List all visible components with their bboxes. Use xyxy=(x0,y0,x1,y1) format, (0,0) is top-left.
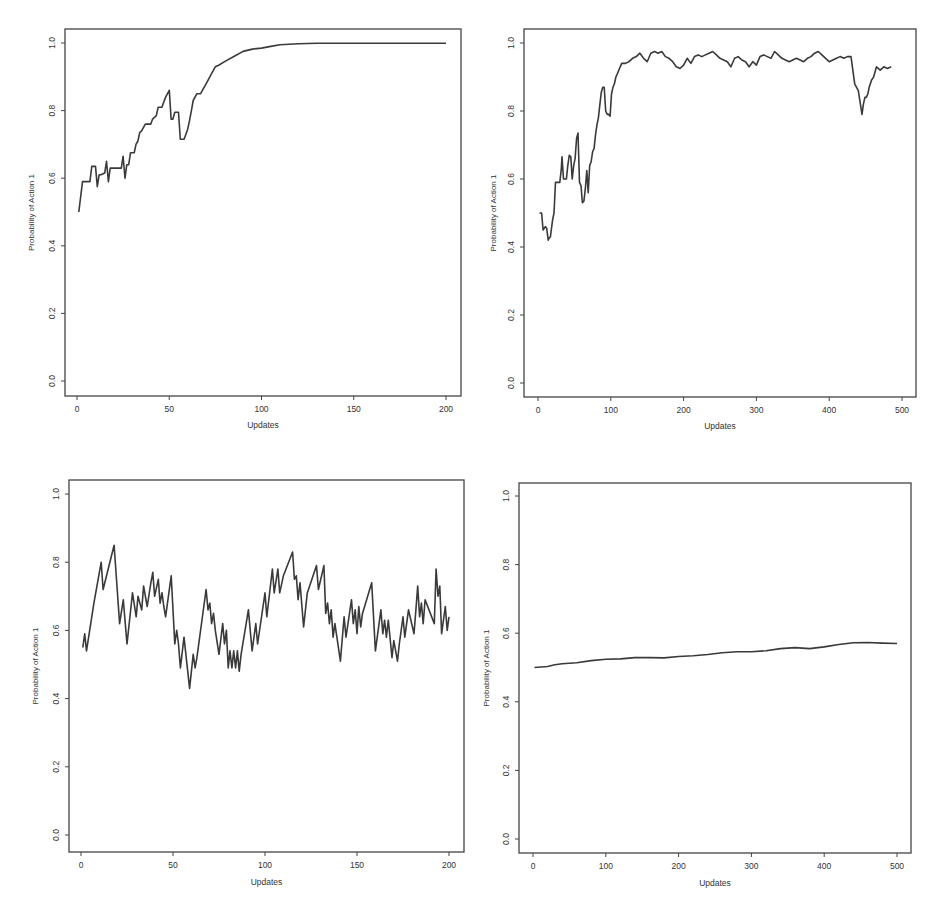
x-tick-label: 50 xyxy=(165,404,175,414)
x-tick-label: 0 xyxy=(75,404,80,414)
series-line xyxy=(79,43,446,212)
y-tick-label: 0.2 xyxy=(47,307,57,319)
x-axis: 050100150200 xyxy=(75,396,454,414)
y-axis: 0.00.20.40.60.81.0 xyxy=(501,490,519,845)
y-tick-label: 0.0 xyxy=(501,833,511,845)
x-axis-title: Updates xyxy=(251,877,283,887)
y-tick-label: 0.0 xyxy=(47,375,57,387)
x-tick-label: 100 xyxy=(604,405,618,415)
x-tick-label: 0 xyxy=(531,861,536,871)
chart-bottom-right: 01002003004005000.00.20.40.60.81.0Update… xyxy=(482,483,911,888)
y-tick-label: 0.2 xyxy=(51,761,61,773)
x-tick-label: 400 xyxy=(817,861,831,871)
y-tick-label: 0.4 xyxy=(47,240,57,252)
y-tick-label: 0.4 xyxy=(51,692,61,704)
plot-frame xyxy=(519,483,911,853)
y-tick-label: 0.8 xyxy=(47,104,57,116)
plot-frame xyxy=(65,29,461,396)
x-axis: 0100200300400500 xyxy=(536,397,910,415)
x-axis: 0100200300400500 xyxy=(531,853,905,871)
x-axis-title: Updates xyxy=(247,420,279,430)
y-tick-label: 0.0 xyxy=(506,377,516,389)
y-axis-title: Probability of Action 1 xyxy=(482,629,491,706)
series-line xyxy=(535,643,898,668)
x-tick-label: 200 xyxy=(442,860,456,870)
y-tick-label: 0.6 xyxy=(506,173,516,185)
y-axis: 0.00.20.40.60.81.0 xyxy=(47,37,65,387)
y-tick-label: 1.0 xyxy=(501,490,511,502)
y-tick-label: 0.8 xyxy=(51,556,61,568)
x-tick-label: 200 xyxy=(677,405,691,415)
x-tick-label: 300 xyxy=(749,405,763,415)
plot-frame xyxy=(69,480,464,852)
y-tick-label: 1.0 xyxy=(506,37,516,49)
y-tick-label: 0.6 xyxy=(51,624,61,636)
x-tick-label: 150 xyxy=(350,860,364,870)
y-axis-title: Probability of Action 1 xyxy=(27,173,36,250)
y-tick-label: 1.0 xyxy=(51,488,61,500)
x-axis-title: Updates xyxy=(699,878,731,888)
x-tick-label: 200 xyxy=(672,861,686,871)
y-axis-title: Probability of Action 1 xyxy=(489,174,498,251)
plot-frame xyxy=(524,29,916,397)
x-tick-label: 0 xyxy=(79,860,84,870)
y-tick-label: 0.2 xyxy=(506,309,516,321)
x-tick-label: 150 xyxy=(347,404,361,414)
y-axis-title: Probability of Action 1 xyxy=(31,627,40,704)
series-line xyxy=(540,52,892,241)
chart-top-left: 0501001502000.00.20.40.60.81.0UpdatesPro… xyxy=(27,29,461,430)
y-tick-label: 0.8 xyxy=(501,558,511,570)
x-tick-label: 100 xyxy=(254,404,268,414)
figure-canvas: 0501001502000.00.20.40.60.81.0UpdatesPro… xyxy=(0,0,944,915)
y-tick-label: 1.0 xyxy=(47,37,57,49)
x-axis-title: Updates xyxy=(704,421,736,431)
x-tick-label: 500 xyxy=(895,405,909,415)
y-axis: 0.00.20.40.60.81.0 xyxy=(51,488,69,841)
y-tick-label: 0.6 xyxy=(501,627,511,639)
y-axis: 0.00.20.40.60.81.0 xyxy=(506,37,524,389)
x-tick-label: 100 xyxy=(258,860,272,870)
x-axis: 050100150200 xyxy=(79,852,457,870)
y-tick-label: 0.8 xyxy=(506,105,516,117)
y-tick-label: 0.4 xyxy=(501,696,511,708)
x-tick-label: 50 xyxy=(168,860,178,870)
y-tick-label: 0.6 xyxy=(47,172,57,184)
x-tick-label: 100 xyxy=(599,861,613,871)
chart-bottom-left: 0501001502000.00.20.40.60.81.0UpdatesPro… xyxy=(31,480,464,887)
y-tick-label: 0.4 xyxy=(506,241,516,253)
x-tick-label: 500 xyxy=(890,861,904,871)
y-tick-label: 0.0 xyxy=(51,829,61,841)
x-tick-label: 0 xyxy=(536,405,541,415)
x-tick-label: 200 xyxy=(439,404,453,414)
y-tick-label: 0.2 xyxy=(501,764,511,776)
x-tick-label: 300 xyxy=(744,861,758,871)
series-line xyxy=(83,545,449,688)
chart-top-right: 01002003004005000.00.20.40.60.81.0Update… xyxy=(489,29,916,431)
x-tick-label: 400 xyxy=(822,405,836,415)
